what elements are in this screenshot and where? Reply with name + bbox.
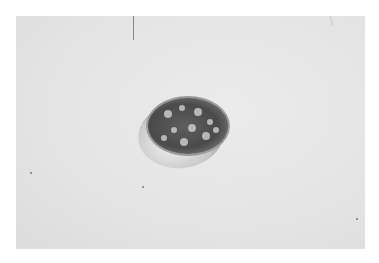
bacterial-colony [194,108,202,116]
bacterial-colony [179,105,185,111]
bacterial-colony [171,127,177,133]
petri-dish [138,96,230,170]
bacterial-colony [202,132,210,140]
bacterial-colony [180,138,188,146]
film-scratch [133,16,134,40]
bacterial-colony [161,135,167,141]
bacterial-colony [164,110,172,118]
bacterial-colony [207,119,213,125]
petri-dish-lid [146,96,230,156]
bacterial-colony [188,124,196,132]
dust-speck [142,186,144,188]
film-scratch [330,16,334,26]
bacterial-colony [213,127,219,133]
dust-speck [356,218,358,220]
dust-speck [30,172,32,174]
photograph [16,16,365,249]
